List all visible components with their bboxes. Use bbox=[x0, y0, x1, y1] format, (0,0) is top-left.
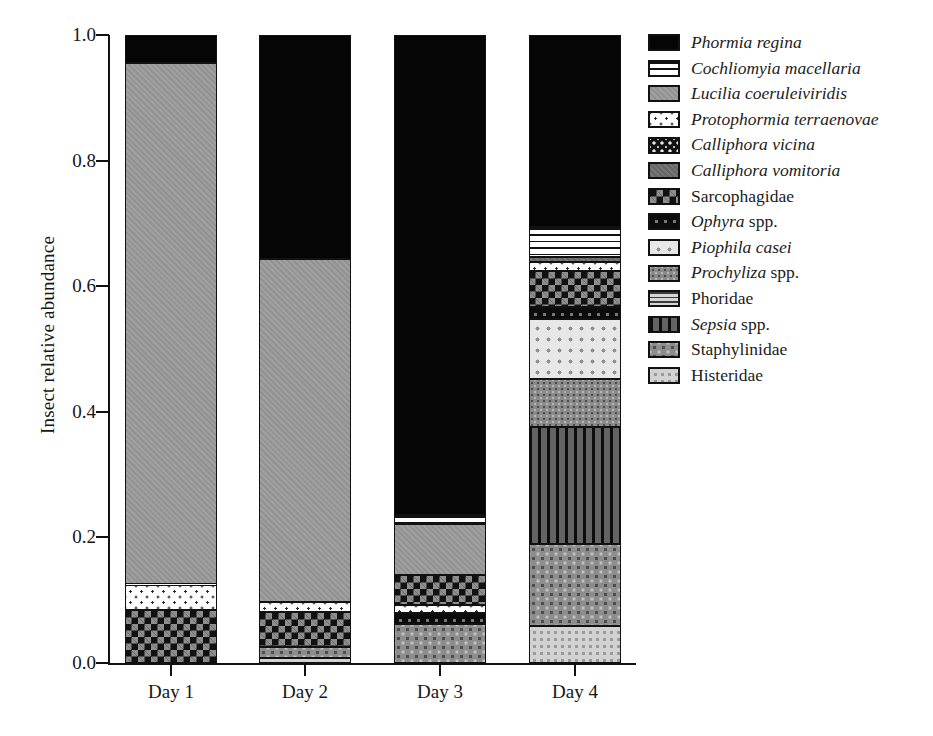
bar-segment bbox=[529, 271, 621, 307]
legend-item-phormia-regina[interactable]: Phormia regina bbox=[648, 30, 928, 56]
legend-label: Calliphora vomitoria bbox=[691, 162, 840, 180]
legend-label: Ophyra spp. bbox=[691, 213, 778, 231]
legend-item-prochyliza-spp[interactable]: Prochyliza spp. bbox=[648, 260, 928, 286]
legend-item-protophormia-terraenovae[interactable]: Protophormia terraenovae bbox=[648, 107, 928, 133]
legend-label: Calliphora vicina bbox=[691, 136, 815, 154]
legend-swatch-icon bbox=[648, 265, 680, 282]
bar-segment bbox=[529, 35, 621, 227]
x-tick-label-day-2: Day 2 bbox=[245, 681, 365, 703]
legend-swatch-icon bbox=[648, 290, 680, 307]
legend-item-lucilia-coeruleiviridis[interactable]: Lucilia coeruleiviridis bbox=[648, 81, 928, 107]
legend-swatch-icon bbox=[648, 239, 680, 256]
bar-segment bbox=[529, 262, 621, 271]
legend-swatch-icon bbox=[648, 85, 680, 102]
y-tick-label: 0.0 bbox=[44, 652, 96, 674]
bar-segment bbox=[529, 379, 621, 427]
bar-segment bbox=[529, 319, 621, 379]
bar-segment bbox=[259, 35, 351, 259]
bar-segment bbox=[259, 612, 351, 647]
legend-label: Phoridae bbox=[691, 290, 753, 308]
legend-swatch-icon bbox=[648, 111, 680, 128]
bar-segment bbox=[259, 259, 351, 602]
legend-label: Protophormia terraenovae bbox=[691, 111, 878, 129]
x-axis-line bbox=[108, 663, 636, 665]
bar-segment bbox=[394, 575, 486, 605]
legend-swatch-icon bbox=[648, 188, 680, 205]
legend-label: Sarcophagidae bbox=[691, 188, 794, 206]
legend-label: Sepsia spp. bbox=[691, 316, 770, 334]
legend-item-ophyra-spp[interactable]: Ophyra spp. bbox=[648, 209, 928, 235]
bar-segment bbox=[529, 227, 621, 258]
bar-segment bbox=[529, 544, 621, 626]
legend-swatch-icon bbox=[648, 162, 680, 179]
legend-item-calliphora-vomitoria[interactable]: Calliphora vomitoria bbox=[648, 158, 928, 184]
bar-segment bbox=[394, 613, 486, 624]
bar-day-2 bbox=[259, 35, 351, 663]
y-tick-label: 0.8 bbox=[44, 150, 96, 172]
legend-item-histeridae[interactable]: Histeridae bbox=[648, 363, 928, 389]
x-tick-mark bbox=[170, 665, 172, 676]
bar-segment bbox=[259, 647, 351, 658]
legend-swatch-icon bbox=[648, 60, 680, 77]
legend-item-calliphora-vicina[interactable]: Calliphora vicina bbox=[648, 132, 928, 158]
x-tick-mark bbox=[439, 665, 441, 676]
bar-segment bbox=[529, 626, 621, 663]
legend-label: Cochliomyia macellaria bbox=[691, 60, 861, 78]
legend-swatch-icon bbox=[648, 213, 680, 230]
stacked-bar-chart: Insect relative abundance 1.00.80.60.40.… bbox=[0, 0, 933, 736]
legend-swatch-icon bbox=[648, 137, 680, 154]
legend-item-phoridae[interactable]: Phoridae bbox=[648, 286, 928, 312]
y-tick-mark bbox=[96, 285, 109, 287]
x-tick-label-day-4: Day 4 bbox=[515, 681, 635, 703]
x-tick-mark bbox=[574, 665, 576, 676]
legend-label: Staphylinidae bbox=[691, 341, 787, 359]
legend-swatch-icon bbox=[648, 341, 680, 358]
x-tick-label-day-1: Day 1 bbox=[111, 681, 231, 703]
bar-segment bbox=[529, 307, 621, 319]
y-tick-mark bbox=[96, 536, 109, 538]
legend-label: Lucilia coeruleiviridis bbox=[691, 85, 847, 103]
y-tick-mark bbox=[96, 160, 109, 162]
bar-day-3 bbox=[394, 35, 486, 663]
bar-day-4 bbox=[529, 35, 621, 663]
legend-item-sarcophagidae[interactable]: Sarcophagidae bbox=[648, 184, 928, 210]
bar-segment bbox=[259, 658, 351, 663]
bar-segment bbox=[125, 610, 217, 663]
bar-segment bbox=[394, 624, 486, 663]
y-axis-line bbox=[108, 35, 110, 664]
legend-swatch-icon bbox=[648, 367, 680, 384]
y-tick-label: 1.0 bbox=[44, 24, 96, 46]
legend-swatch-icon bbox=[648, 34, 680, 51]
legend-label: Histeridae bbox=[691, 367, 763, 385]
bar-segment bbox=[394, 605, 486, 614]
y-tick-mark bbox=[96, 34, 109, 36]
y-tick-label: 0.6 bbox=[44, 275, 96, 297]
y-tick-label: 0.4 bbox=[44, 401, 96, 423]
bar-segment bbox=[259, 602, 351, 612]
bar-segment bbox=[529, 257, 621, 262]
legend-label: Prochyliza spp. bbox=[691, 264, 799, 282]
bar-segment bbox=[394, 524, 486, 575]
y-tick-label: 0.2 bbox=[44, 526, 96, 548]
x-tick-label-day-3: Day 3 bbox=[380, 681, 500, 703]
bar-segment bbox=[529, 427, 621, 544]
y-axis-title: Insect relative abundance bbox=[37, 25, 59, 645]
bar-segment bbox=[125, 63, 217, 584]
legend-label: Piophila casei bbox=[691, 239, 792, 257]
bar-segment bbox=[125, 35, 217, 63]
legend-label: Phormia regina bbox=[691, 34, 802, 52]
legend: Phormia reginaCochliomyia macellariaLuci… bbox=[648, 30, 928, 388]
legend-item-piophila-casei[interactable]: Piophila casei bbox=[648, 235, 928, 261]
legend-item-sepsia-spp[interactable]: Sepsia spp. bbox=[648, 312, 928, 338]
y-tick-mark bbox=[96, 411, 109, 413]
bar-segment bbox=[394, 515, 486, 524]
bar-segment bbox=[125, 585, 217, 611]
legend-swatch-icon bbox=[648, 316, 680, 333]
legend-item-cochliomyia-macellaria[interactable]: Cochliomyia macellaria bbox=[648, 56, 928, 82]
x-tick-mark bbox=[304, 665, 306, 676]
bar-segment bbox=[394, 35, 486, 515]
bar-day-1 bbox=[125, 35, 217, 663]
legend-item-staphylinidae[interactable]: Staphylinidae bbox=[648, 337, 928, 363]
